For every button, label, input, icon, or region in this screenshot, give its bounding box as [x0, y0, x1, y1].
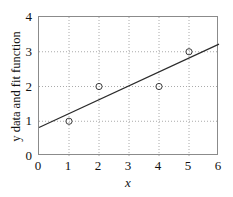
fit-line: [39, 44, 219, 127]
data-point-marker: [96, 83, 102, 89]
data-point-marker: [66, 118, 72, 124]
x-tick-label: 5: [178, 159, 198, 172]
data-layer: [39, 17, 219, 156]
data-point-marker: [186, 49, 192, 55]
x-tick-label: 1: [58, 159, 78, 172]
y-axis-title: y data and fit function: [10, 17, 23, 157]
x-tick-label: 4: [148, 159, 168, 172]
x-axis-title: x: [108, 176, 148, 189]
x-tick-label: 2: [88, 159, 108, 172]
x-tick-label: 6: [208, 159, 228, 172]
plot-area: [38, 16, 218, 155]
data-point-marker: [156, 83, 162, 89]
figure-canvas: 0123456 01234 x y data and fit function: [0, 0, 233, 197]
x-tick-label: 3: [118, 159, 138, 172]
